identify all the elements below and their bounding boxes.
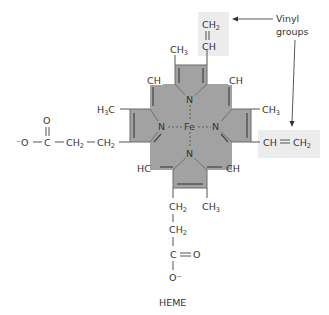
methylene-left-2: CH2 [97,137,115,150]
vinyl-right-ch: CH [263,137,277,148]
annotation-groups: groups [276,26,309,37]
methylene-bottom-1: CH2 [169,201,187,214]
carbonyl-o-left: O [43,115,50,126]
methyl-bottom: CH3 [202,201,220,214]
nitrogen-top: N [186,94,193,105]
methylene-bottom-2: CH2 [169,224,187,237]
arrowhead-icon [232,17,238,22]
carboxyl-carbon-left: C [44,137,51,148]
carboxylate-o-minus-left: ⁻O [16,137,29,148]
heme-diagram: N N N N Fe CH CH HC CH CH3 CH CH2 H3C ⁻O… [0,0,329,315]
carboxylate-o-minus-bottom: O⁻ [169,272,182,283]
nitrogen-right: N [212,121,219,132]
methylene-left-1: CH2 [66,137,84,150]
carbonyl-o-bottom: O [193,249,200,260]
methyl-left: H3C [97,104,115,117]
annotation-vinyl: Vinyl [276,13,299,24]
figure-caption: HEME [159,297,186,308]
meso-hc-bottom-left: HC [137,163,151,174]
nitrogen-left: N [158,121,165,132]
vinyl-top-ch: CH [202,41,216,52]
iron-atom: Fe [184,121,195,132]
annotation-arrow-right [292,40,295,122]
methyl-right: CH3 [262,104,280,117]
nitrogen-bottom: N [186,148,193,159]
meso-ch-top-left: CH [147,75,161,86]
methyl-top: CH3 [170,44,188,57]
meso-ch-bottom-right: CH [226,163,240,174]
carboxyl-carbon-bottom: C [170,249,177,260]
arrowhead-icon [290,121,295,127]
meso-ch-top-right: CH [229,75,243,86]
